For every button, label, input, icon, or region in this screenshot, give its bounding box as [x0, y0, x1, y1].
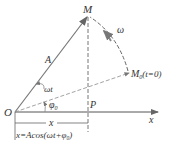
- angle-arc-omega-t: [36, 84, 44, 89]
- formula-x: x=Acos(ωt+φ0): [15, 130, 72, 141]
- vector-om0: [15, 73, 129, 112]
- phasor-diagram: M ω A ωt φ0 O P x M0(t=0) x x=Acos(ωt+φ0…: [0, 0, 173, 150]
- label-m: M: [82, 3, 93, 15]
- angle-arc-phi0: [44, 102, 45, 112]
- label-omega-t: ωt: [44, 84, 53, 94]
- label-m0: M0(t=0): [130, 68, 161, 80]
- label-x-span: x: [48, 117, 54, 128]
- label-omega: ω: [117, 24, 124, 35]
- label-phi0: φ0: [49, 99, 58, 111]
- label-origin: O: [4, 106, 12, 118]
- label-amplitude: A: [44, 54, 52, 65]
- label-p: P: [89, 99, 96, 110]
- label-x-axis: x: [148, 114, 154, 125]
- diagram-canvas: M ω A ωt φ0 O P x M0(t=0) x x=Acos(ωt+φ0…: [0, 0, 173, 150]
